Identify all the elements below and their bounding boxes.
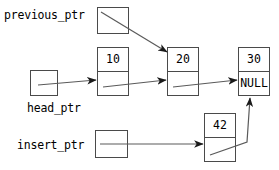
node-30: 30 NULL xyxy=(238,47,270,96)
node-30-next-null: NULL xyxy=(239,72,269,96)
node-10: 10 xyxy=(97,47,129,96)
insert-ptr-box xyxy=(95,130,128,158)
node-20-next xyxy=(168,72,198,96)
label-insert-ptr: insert_ptr xyxy=(17,139,84,152)
node-20-data: 20 xyxy=(168,48,198,72)
node-30-data: 30 xyxy=(239,48,269,72)
node-42-data: 42 xyxy=(205,114,235,138)
label-previous-ptr: previous_ptr xyxy=(4,9,85,22)
previous-ptr-box xyxy=(97,7,129,34)
node-42: 42 xyxy=(204,113,236,162)
label-head-ptr: head_ptr xyxy=(27,102,81,115)
node-42-next xyxy=(205,138,235,162)
node-10-next xyxy=(98,72,128,96)
diagram-canvas: previous_ptr head_ptr insert_ptr 10 20 3… xyxy=(0,0,279,170)
node-10-data: 10 xyxy=(98,48,128,72)
node-20: 20 xyxy=(167,47,199,96)
head-ptr-box xyxy=(30,70,58,96)
